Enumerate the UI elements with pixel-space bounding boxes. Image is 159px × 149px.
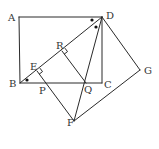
label-G: G (144, 65, 152, 76)
label-B: B (9, 78, 16, 89)
segment-EF (37, 71, 74, 121)
right-angle-mark-E (39, 69, 42, 75)
label-F: F (67, 117, 74, 128)
label-C: C (104, 79, 112, 90)
label-R: R (56, 40, 64, 51)
right-angle-mark-R (64, 49, 67, 55)
label-D: D (106, 10, 114, 21)
label-A: A (7, 12, 16, 23)
label-P: P (39, 85, 46, 96)
segment-RQ (62, 51, 86, 83)
angle-mark-BDQ (94, 25, 97, 28)
segment-GF (74, 70, 140, 121)
segment-DF (74, 17, 102, 121)
label-Q: Q (84, 84, 92, 95)
label-E: E (30, 61, 37, 72)
segment-AB (19, 17, 20, 83)
geometry-diagram: A D B C E R P Q F G (0, 0, 159, 149)
angle-mark-DBC (25, 78, 28, 81)
angle-mark-ADB (90, 18, 93, 21)
segment-DG (102, 17, 140, 70)
